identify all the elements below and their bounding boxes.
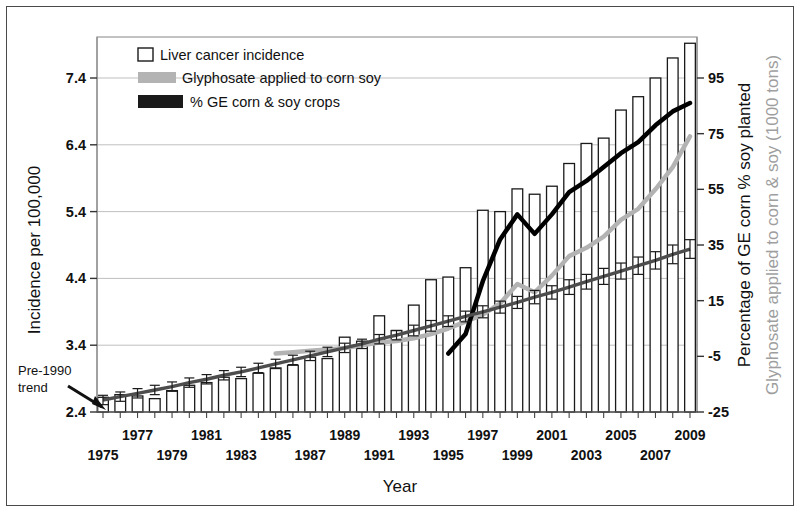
x-axis-tick-label: 1995	[433, 447, 464, 463]
x-axis-tick-label: 1977	[122, 427, 153, 443]
bar	[374, 316, 385, 412]
bar	[253, 373, 264, 412]
chart-canvas: 2.43.44.45.46.47.4 -25-51535557595 19751…	[0, 0, 802, 522]
legend: Liver cancer incidence Glyphosate applie…	[138, 47, 382, 110]
x-axis-tick-label: 2001	[536, 427, 567, 443]
y-axis-right-tick-label: -25	[708, 404, 729, 420]
x-axis-tick-label: 2009	[674, 427, 705, 443]
bar	[219, 377, 230, 412]
x-axis-tick-label: 1987	[295, 447, 326, 463]
x-axis-tick-label: 1979	[156, 447, 187, 463]
x-axis-tick-label: 1991	[364, 447, 395, 463]
y-axis-left-tick-label: 5.4	[66, 204, 86, 220]
x-axis-tick-label: 1993	[398, 427, 429, 443]
y-axis-right-tick-label: 15	[708, 293, 724, 309]
legend-marker-ge-crops	[138, 95, 183, 108]
bar	[426, 280, 437, 412]
x-axis-tick-label: 1997	[467, 427, 498, 443]
bar	[288, 365, 299, 412]
bar	[305, 357, 316, 412]
x-axis-tick-label: 2005	[605, 427, 636, 443]
y-axis-left-title: Incidence per 100,000	[25, 166, 44, 334]
y-axis-right-tick-label: 95	[708, 70, 724, 86]
y-axis-right-title-secondary: Glyphosate applied to corn & soy (1000 t…	[763, 55, 782, 395]
bar	[322, 359, 333, 412]
bar	[201, 383, 212, 412]
bar	[236, 379, 247, 412]
y-axis-left-tick-label: 2.4	[66, 404, 86, 420]
legend-label-liver-cancer-incidence: Liver cancer incidence	[160, 47, 304, 63]
bar	[167, 391, 178, 412]
bar	[408, 305, 419, 412]
y-axis-left-tick-label: 7.4	[66, 70, 86, 86]
x-axis-tick-label: 2007	[640, 447, 671, 463]
y-axis-right-tick-label: 55	[708, 181, 724, 197]
x-axis-tick-label: 2003	[571, 447, 602, 463]
y-axis-left-tick-label: 3.4	[66, 337, 86, 353]
bars-liver-cancer-incidence	[98, 43, 696, 412]
y-axis-right-title-primary: Percentage of GE corn % soy planted	[735, 83, 754, 367]
annotation-line-1: Pre-1990	[18, 363, 71, 378]
bar	[149, 399, 160, 412]
bar	[357, 341, 368, 412]
legend-marker-glyphosate	[138, 72, 176, 83]
x-axis-tick-label: 1999	[502, 447, 533, 463]
bar	[443, 277, 454, 412]
annotation-pre-1990-trend: Pre-1990 trend	[18, 363, 106, 410]
y-axis-right: -25-51535557595	[697, 37, 729, 420]
y-axis-left-tick-label: 6.4	[66, 137, 86, 153]
bar	[270, 368, 281, 412]
y-axis-left-tick-label: 4.4	[66, 270, 86, 286]
legend-marker-liver-cancer-incidence	[138, 48, 153, 61]
x-axis-tick-label: 1975	[87, 447, 118, 463]
x-axis: 1975197719791981198319851987198919911993…	[87, 412, 705, 463]
x-axis-tick-label: 1989	[329, 427, 360, 443]
bar	[685, 43, 696, 412]
x-axis-title: Year	[383, 477, 418, 496]
x-axis-tick-label: 1983	[226, 447, 257, 463]
annotation-line-2: trend	[18, 380, 48, 395]
y-axis-right-tick-label: 75	[708, 126, 724, 142]
x-axis-tick-label: 1985	[260, 427, 291, 443]
y-axis-right-tick-label: -5	[708, 348, 721, 364]
x-axis-tick-label: 1981	[191, 427, 222, 443]
y-axis-right-tick-label: 35	[708, 237, 724, 253]
legend-label-glyphosate: Glyphosate applied to corn soy	[182, 70, 382, 86]
bar	[184, 385, 195, 412]
legend-label-ge-crops: % GE corn & soy crops	[190, 94, 340, 110]
figure-container: 2.43.44.45.46.47.4 -25-51535557595 19751…	[0, 0, 802, 522]
